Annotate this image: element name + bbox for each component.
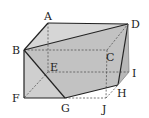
label-H: H xyxy=(117,87,127,100)
label-F: F xyxy=(12,92,20,105)
label-D: D xyxy=(131,18,140,31)
label-C: C xyxy=(106,51,114,64)
label-A: A xyxy=(43,10,53,23)
prism-diagram: A B C D E F G H I J xyxy=(0,0,149,118)
label-G: G xyxy=(61,102,70,115)
label-E: E xyxy=(50,61,58,74)
label-J: J xyxy=(101,103,106,116)
label-B: B xyxy=(12,44,20,57)
label-I: I xyxy=(132,67,136,80)
